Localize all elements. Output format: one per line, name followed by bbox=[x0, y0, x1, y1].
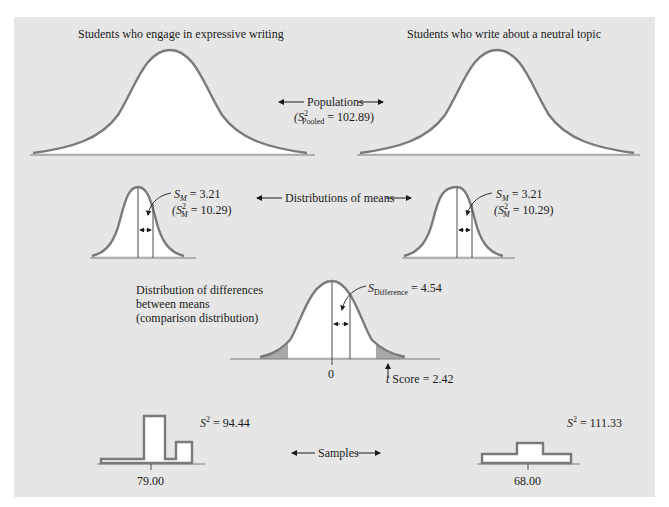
sample-histogram-left bbox=[97, 416, 205, 470]
population-left-title: Students who engage in expressive writin… bbox=[78, 27, 284, 41]
means-right-variance: (S2M = 10.29) bbox=[494, 203, 553, 217]
comparison-title-line1: Distribution of differences bbox=[136, 283, 263, 297]
figure-graphics bbox=[0, 0, 669, 507]
pooled-variance-sub: Pooled bbox=[302, 117, 324, 126]
means-right-sm: SM = 3.21 bbox=[496, 187, 542, 201]
sample-var-value: = 111.33 bbox=[577, 416, 622, 430]
pooled-variance: (S2Pooled = 102.89) bbox=[294, 110, 374, 124]
populations-label: Populations bbox=[307, 95, 364, 109]
t-score-label: t Score = 2.42 bbox=[386, 372, 453, 386]
var-sub: M bbox=[503, 210, 510, 219]
sm-value: = 3.21 bbox=[187, 187, 221, 201]
t-score-value: Score = 2.42 bbox=[389, 372, 453, 386]
sdiff-value: = 4.54 bbox=[408, 281, 442, 295]
var-sub: M bbox=[181, 210, 188, 219]
means-left-variance: (S2M = 10.29) bbox=[172, 203, 231, 217]
sample-left-variance: S2 = 94.44 bbox=[200, 416, 250, 430]
population-right-title: Students who write about a neutral topic bbox=[407, 27, 601, 41]
sample-left-mean: 79.00 bbox=[137, 474, 164, 488]
samples-label: Samples bbox=[318, 446, 359, 460]
means-left-sm: SM = 3.21 bbox=[174, 187, 220, 201]
population-curve-right bbox=[357, 50, 640, 155]
distributions-of-means-label: Distributions of means bbox=[285, 191, 394, 205]
sample-right-mean: 68.00 bbox=[514, 474, 541, 488]
sample-histogram-right bbox=[477, 443, 580, 470]
sample-right-variance: S2 = 111.33 bbox=[567, 416, 622, 430]
pooled-variance-value: = 102.89) bbox=[324, 110, 374, 124]
population-curve-left bbox=[30, 50, 315, 155]
sdifference-label: SDifference = 4.54 bbox=[368, 281, 442, 295]
comparison-title-line2: between means bbox=[136, 297, 210, 311]
sample-var-value: = 94.44 bbox=[210, 416, 250, 430]
zero-tick-label: 0 bbox=[328, 367, 334, 381]
var-value: = 10.29) bbox=[510, 203, 554, 217]
sm-value: = 3.21 bbox=[509, 187, 543, 201]
sdiff-sub: Difference bbox=[374, 288, 408, 297]
comparison-title-line3: (comparison distribution) bbox=[136, 311, 258, 325]
var-value: = 10.29) bbox=[188, 203, 232, 217]
